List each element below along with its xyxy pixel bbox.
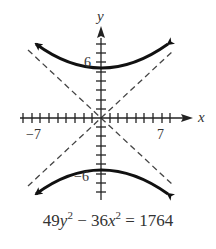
y-axis-arrow-icon (97, 26, 105, 38)
x-tick-label-neg7: −7 (26, 127, 41, 142)
y-tick-label-6: 6 (84, 55, 91, 70)
x-tick-label-7: 7 (157, 127, 164, 142)
y-axis (96, 26, 106, 200)
x-axis-label: x (197, 109, 205, 125)
y-tick-label-neg6: −6 (74, 169, 89, 184)
y-axis-label: y (95, 8, 104, 24)
x-axis (20, 113, 193, 123)
upper-branch (36, 44, 168, 68)
equation-caption: 49y2 − 36x2 = 1764 (0, 209, 216, 231)
